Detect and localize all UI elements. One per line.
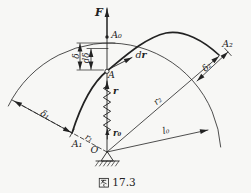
point-label-a0: A₀	[111, 30, 122, 40]
point-label-a2: A₂	[222, 39, 233, 49]
delta-label: δ	[71, 53, 80, 58]
dr-label-r: r	[142, 49, 147, 60]
l0-length-arrow	[107, 130, 208, 152]
l0-label: l₀	[162, 126, 170, 136]
path-curve-a1-a2	[72, 32, 219, 133]
point-label-a: A	[108, 70, 115, 80]
figure-17-3: F A₀ A dr δ dδ r r₀ r₁ O A₁ δ₁ r₂ l₀ A₂ …	[0, 0, 251, 193]
r2-radius-arrow	[107, 56, 219, 152]
d-delta-label: dδ	[81, 53, 90, 64]
dr-label: dr	[135, 50, 146, 60]
r-vector-label: r	[113, 86, 118, 96]
caption-number: 17.3	[112, 176, 135, 188]
caption-tu-glyph	[98, 177, 109, 188]
pin-support-triangle	[101, 152, 113, 161]
origin-label: O	[91, 145, 99, 155]
diagram-line-art	[0, 0, 251, 193]
point-a0-dot	[105, 35, 108, 38]
r0-unit-vector-label: r₀	[113, 129, 121, 138]
figure-caption: 17.3	[98, 176, 135, 188]
ground-hatching	[96, 161, 120, 166]
force-label: F	[95, 7, 103, 18]
point-label-a1: A₁	[72, 139, 83, 149]
